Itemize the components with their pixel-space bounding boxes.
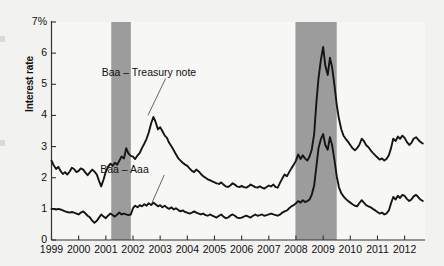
chart-figure: Interest rate 01234567%19992000200120022… (0, 0, 444, 266)
y-tick-label: 4 (14, 108, 47, 120)
y-tick-label: 6 (14, 46, 47, 58)
edge-artifact-top (0, 36, 5, 42)
shaded-region-recession-2008 (295, 22, 336, 240)
y-tick-label: 2 (14, 171, 47, 183)
shaded-region-recession-2001 (111, 22, 131, 240)
y-tick-label: 7% (14, 15, 47, 27)
series-annotation-label: Baa – Treasury note (102, 66, 197, 78)
x-tick-label: 2012 (385, 243, 425, 255)
edge-artifact-bottom (0, 140, 5, 146)
y-tick-label: 5 (14, 77, 47, 89)
y-tick-label: 1 (14, 202, 47, 214)
y-tick-label: 3 (14, 140, 47, 152)
series-annotation-label: Baa – Aaa (100, 163, 148, 175)
chart-plot-area (0, 0, 444, 266)
